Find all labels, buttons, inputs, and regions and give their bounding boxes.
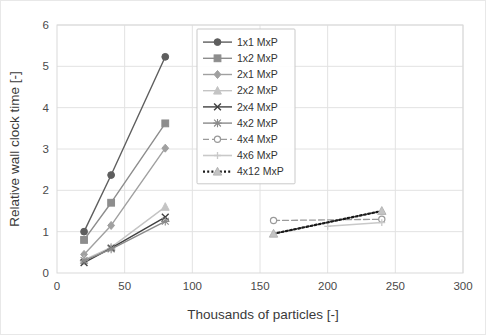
data-point-marker [161, 203, 169, 211]
legend-label: 2x4 MxP [237, 101, 278, 113]
y-axis-ticks: 0123456 [43, 19, 50, 279]
y-tick-label: 2 [43, 184, 49, 196]
data-point-marker [107, 245, 115, 253]
data-point-marker [80, 256, 88, 264]
chart-figure: 050100150200250300 0123456 Thousands of … [0, 0, 486, 335]
data-point-marker [108, 199, 115, 206]
data-point-marker [213, 119, 221, 127]
chart-legend: 1x1 MxP1x2 MxP2x1 MxP2x2 MxP2x4 MxP4x2 M… [197, 29, 295, 184]
data-point-marker [162, 53, 169, 60]
data-point-marker [214, 39, 221, 46]
x-tick-label: 150 [250, 280, 269, 292]
legend-label: 1x2 MxP [237, 52, 278, 64]
data-point-marker [214, 55, 221, 62]
x-tick-label: 100 [183, 280, 202, 292]
legend-label: 4x4 MxP [237, 133, 278, 145]
y-tick-label: 1 [43, 226, 49, 238]
y-tick-label: 4 [43, 102, 50, 114]
legend-label: 4x12 MxP [237, 165, 284, 177]
x-tick-label: 200 [318, 280, 337, 292]
x-tick-label: 300 [453, 280, 472, 292]
series-line [274, 219, 382, 220]
data-point-marker [161, 217, 169, 225]
legend-label: 4x2 MxP [237, 117, 278, 129]
data-point-marker [162, 120, 169, 127]
series-line [328, 223, 382, 227]
y-tick-label: 3 [43, 143, 49, 155]
legend-label: 4x6 MxP [237, 149, 278, 161]
legend-label: 1x1 MxP [237, 36, 278, 48]
y-tick-label: 5 [43, 60, 49, 72]
data-point-marker [378, 207, 386, 215]
y-tick-label: 0 [43, 267, 49, 279]
data-point-marker [214, 136, 220, 142]
x-axis-ticks: 050100150200250300 [54, 280, 473, 292]
y-tick-label: 6 [43, 19, 49, 31]
data-point-marker [270, 217, 276, 223]
data-point-marker [108, 172, 115, 179]
legend-label: 2x1 MxP [237, 68, 278, 80]
legend-label: 2x2 MxP [237, 84, 278, 96]
x-tick-label: 50 [118, 280, 131, 292]
y-axis-title: Relative wall clock time [-] [7, 71, 22, 226]
x-tick-label: 250 [386, 280, 405, 292]
x-axis-title: Thousands of particles [-] [187, 307, 339, 322]
chart-canvas: 050100150200250300 0123456 Thousands of … [1, 1, 486, 335]
data-point-marker [81, 228, 88, 235]
x-tick-label: 0 [54, 280, 60, 292]
data-point-marker [81, 237, 88, 244]
